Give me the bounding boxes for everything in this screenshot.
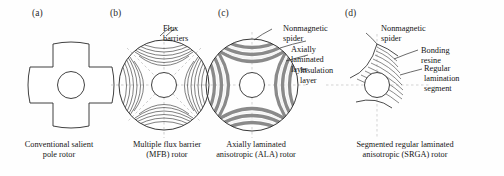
panel-b-letter: (b)	[110, 8, 121, 18]
rotor-topology-figure: (a) Conventional salient pole rotor (b)	[0, 0, 504, 176]
callout-nonmagnetic-spider-d: Nonmagnetic spider	[381, 24, 426, 44]
rotor-d-drawing	[326, 30, 436, 140]
panel-c-caption: Axially laminated anisotropic (ALA) roto…	[193, 140, 319, 161]
callout-regular-lamination-segment: Regular lamination segment	[424, 64, 459, 94]
panel-d-caption: Segmented regular laminated anisotropic …	[312, 140, 498, 161]
panel-d-letter: (d)	[345, 8, 356, 18]
shaft-hole-d	[365, 73, 390, 98]
shaft-hole-a	[58, 72, 85, 99]
shaft-hole-c	[240, 73, 265, 98]
panel-a-letter: (a)	[32, 8, 43, 18]
spider-leader-c	[254, 29, 272, 40]
panel-a-caption: Conventional salient pole rotor	[0, 140, 118, 161]
bonding-resine-leader-d	[394, 50, 418, 59]
callout-nonmagnetic-spider-c: Nonmagnetic spider	[283, 24, 328, 44]
callout-bonding-resine: Bonding resine	[421, 46, 450, 66]
spider-leader-d	[366, 33, 377, 44]
callout-flux-barriers: Flux barriers	[163, 24, 188, 44]
regular-lamination-leader-d	[400, 69, 422, 75]
shaft-hole-b	[152, 73, 177, 98]
flux-barrier-arc-left	[114, 50, 144, 122]
panel-c-letter: (c)	[218, 8, 229, 18]
